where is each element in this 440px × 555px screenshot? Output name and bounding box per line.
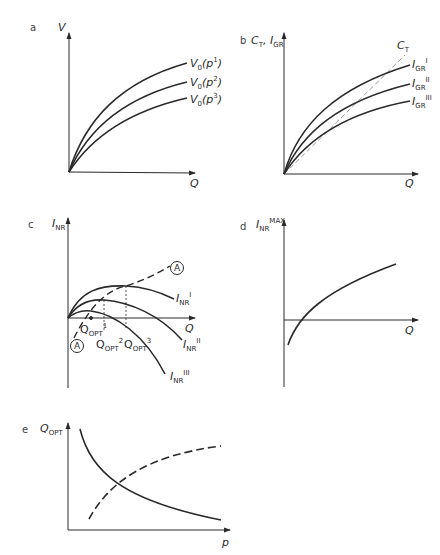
panel-c-qopt-2: QOPT2 (96, 338, 123, 353)
panel-c-letter: c (28, 220, 34, 230)
panel-b-letter: b (240, 36, 246, 46)
panel-b-curve-label-3: IGRIII (412, 95, 432, 110)
panel-b-curve-label-1: IGRI (412, 58, 428, 73)
panel-a-curves (69, 63, 187, 172)
panel-a-letter: a (30, 23, 36, 33)
panel-c-x-label: Q (185, 323, 194, 334)
panel-c-marker-A-bottom: A (70, 339, 84, 353)
panel-d-curve (288, 264, 396, 345)
panel-b-curves (284, 65, 410, 174)
panel-a-y-label: V (58, 22, 66, 33)
panel-e-y-label: QOPT (40, 423, 63, 437)
panel-b-x-label: Q (405, 178, 414, 189)
panel-d-y-label: INRMAX (256, 218, 285, 233)
panel-a-curve-label-2: V0(p2) (190, 76, 222, 91)
panel-c-marker-A-top: A (170, 261, 184, 275)
panel-c-curve-label-2: INRII (183, 338, 201, 353)
panel-e-solid-curve (80, 429, 221, 520)
panel-d-axes (284, 220, 418, 387)
panel-b-ct-label: CT (397, 40, 409, 54)
panel-a-curve-label-1: V0(p1) (190, 57, 222, 72)
panel-c-qopt-1: QOPT1 (80, 323, 107, 338)
panel-e-letter: e (22, 425, 28, 435)
panel-d-letter: d (240, 222, 246, 232)
panel-a-x-label: Q (190, 178, 199, 189)
panel-d-x-label: Q (405, 325, 414, 336)
panel-e-dashed-curve (89, 446, 221, 519)
panel-c-qopt-3: QOPT3 (124, 338, 151, 353)
panel-c-curve-label-3: INRIII (170, 370, 190, 385)
panel-b-y-label: CT, IGR (251, 35, 284, 49)
panel-b-curve-label-2: IGRII (412, 77, 430, 92)
panel-a-curve-label-3: V0(p3) (190, 93, 222, 108)
panel-c-curve-label-1: INRI (176, 292, 191, 307)
panel-c-y-label: INR (52, 218, 65, 232)
panel-e-x-label: p (222, 537, 229, 548)
